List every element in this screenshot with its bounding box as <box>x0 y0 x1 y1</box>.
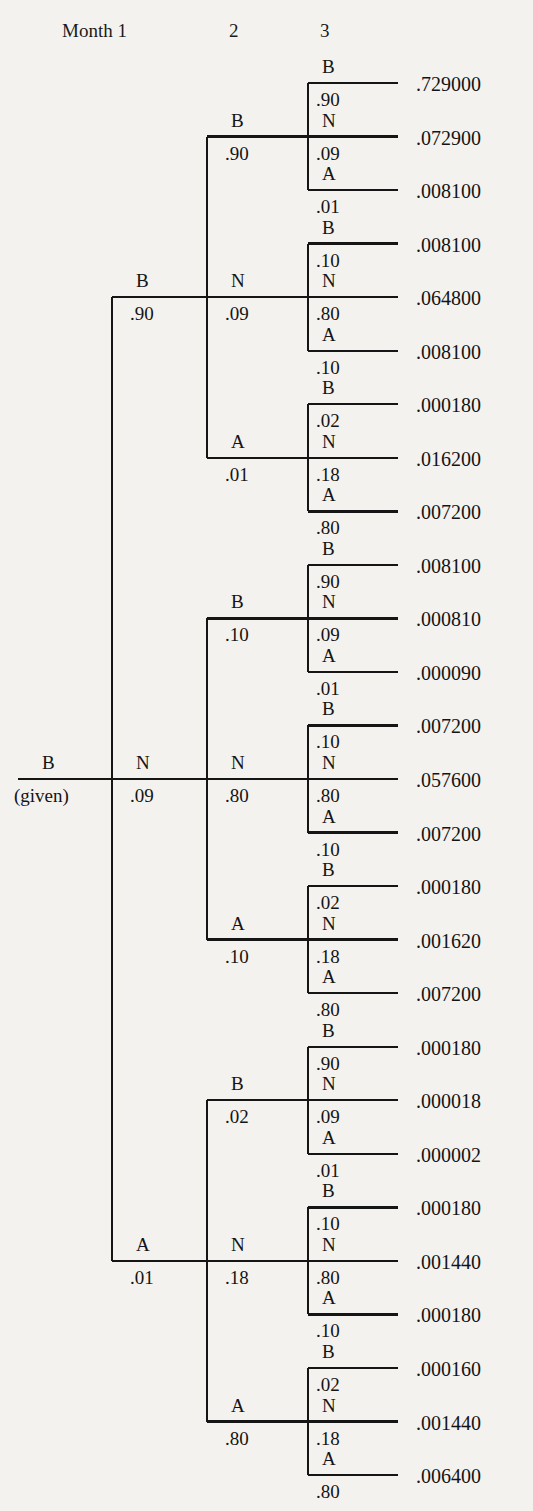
level3-probability: .80 <box>316 1268 340 1287</box>
leaf-value: .008100 <box>416 181 481 201</box>
level3-probability: .10 <box>316 1321 340 1340</box>
level3-probability: .10 <box>316 251 340 270</box>
level3-node-label: A <box>322 485 336 504</box>
level3-probability: .01 <box>316 197 340 216</box>
leaf-value: .000810 <box>416 609 481 629</box>
level3-probability: .80 <box>316 1482 340 1501</box>
level1-probability: .09 <box>130 786 154 805</box>
root-node-label: B <box>42 753 55 772</box>
leaf-value: .000160 <box>416 1359 481 1379</box>
leaf-value: .000180 <box>416 1038 481 1058</box>
level2-node-label: N <box>231 1235 245 1254</box>
level2-probability: .80 <box>225 786 249 805</box>
level3-node-label: A <box>322 164 336 183</box>
level2-probability: .09 <box>225 304 249 323</box>
level3-node-label: B <box>322 57 335 76</box>
level2-probability: .10 <box>225 625 249 644</box>
level3-node-label: A <box>322 1288 336 1307</box>
leaf-value: .729000 <box>416 74 481 94</box>
level2-node-label: A <box>231 914 245 933</box>
level2-probability: .18 <box>225 1268 249 1287</box>
leaf-value: .007200 <box>416 716 481 736</box>
level3-node-label: B <box>322 539 335 558</box>
level3-probability: .90 <box>316 90 340 109</box>
leaf-value: .008100 <box>416 556 481 576</box>
tree-diagram-canvas <box>0 0 533 1511</box>
leaf-value: .001620 <box>416 931 481 951</box>
root-given-label: (given) <box>14 786 69 805</box>
leaf-value: .000090 <box>416 663 481 683</box>
level3-node-label: A <box>322 1128 336 1147</box>
level3-probability: .09 <box>316 1107 340 1126</box>
tree-branch-lines <box>18 83 398 1475</box>
level3-node-label: B <box>322 1342 335 1361</box>
level3-node-label: N <box>322 592 336 611</box>
leaf-value: .008100 <box>416 235 481 255</box>
leaf-value: .057600 <box>416 770 481 790</box>
leaf-value: .000180 <box>416 1305 481 1325</box>
level3-probability: .02 <box>316 411 340 430</box>
level1-probability: .01 <box>130 1268 154 1287</box>
level3-node-label: A <box>322 325 336 344</box>
level3-node-label: B <box>322 860 335 879</box>
leaf-value: .000002 <box>416 1145 481 1165</box>
level2-node-label: B <box>231 592 244 611</box>
level3-node-label: N <box>322 1396 336 1415</box>
leaf-value: .007200 <box>416 824 481 844</box>
level3-probability: .01 <box>316 679 340 698</box>
leaf-value: .007200 <box>416 984 481 1004</box>
leaf-value: .000180 <box>416 877 481 897</box>
level1-node-label: N <box>136 753 150 772</box>
leaf-value: .064800 <box>416 288 481 308</box>
level3-probability: .02 <box>316 1375 340 1394</box>
leaf-value: .072900 <box>416 128 481 148</box>
level3-probability: .18 <box>316 947 340 966</box>
level1-node-label: A <box>136 1235 150 1254</box>
level2-node-label: A <box>231 1396 245 1415</box>
level3-node-label: A <box>322 807 336 826</box>
level3-node-label: B <box>322 218 335 237</box>
level3-probability: .80 <box>316 304 340 323</box>
leaf-value: .001440 <box>416 1252 481 1272</box>
level2-probability: .02 <box>225 1107 249 1126</box>
level3-node-label: N <box>322 432 336 451</box>
level3-probability: .10 <box>316 840 340 859</box>
leaf-value: .000180 <box>416 395 481 415</box>
level2-probability: .90 <box>225 144 249 163</box>
level3-node-label: A <box>322 1449 336 1468</box>
level3-node-label: N <box>322 914 336 933</box>
level3-probability: .80 <box>316 1000 340 1019</box>
level3-probability: .01 <box>316 1161 340 1180</box>
level1-node-label: B <box>136 271 149 290</box>
leaf-value: .000018 <box>416 1091 481 1111</box>
level3-probability: .09 <box>316 144 340 163</box>
level2-node-label: N <box>231 271 245 290</box>
level3-node-label: B <box>322 699 335 718</box>
level2-probability: .80 <box>225 1429 249 1448</box>
level3-node-label: A <box>322 967 336 986</box>
level3-node-label: N <box>322 753 336 772</box>
level3-probability: .10 <box>316 732 340 751</box>
level3-probability: .18 <box>316 1429 340 1448</box>
level3-node-label: A <box>322 646 336 665</box>
level3-probability: .90 <box>316 572 340 591</box>
level3-node-label: N <box>322 1074 336 1093</box>
level3-probability: .09 <box>316 625 340 644</box>
level3-node-label: N <box>322 1235 336 1254</box>
level3-probability: .80 <box>316 786 340 805</box>
level2-probability: .01 <box>225 465 249 484</box>
leaf-value: .007200 <box>416 502 481 522</box>
level3-node-label: B <box>322 1181 335 1200</box>
level3-probability: .80 <box>316 518 340 537</box>
level3-probability: .10 <box>316 1214 340 1233</box>
level3-probability: .18 <box>316 465 340 484</box>
level2-node-label: N <box>231 753 245 772</box>
level3-probability: .90 <box>316 1054 340 1073</box>
leaf-value: .000180 <box>416 1198 481 1218</box>
leaf-value: .006400 <box>416 1466 481 1486</box>
leaf-value: .001440 <box>416 1413 481 1433</box>
level3-probability: .10 <box>316 358 340 377</box>
level3-node-label: B <box>322 378 335 397</box>
leaf-value: .008100 <box>416 342 481 362</box>
level3-node-label: N <box>322 271 336 290</box>
